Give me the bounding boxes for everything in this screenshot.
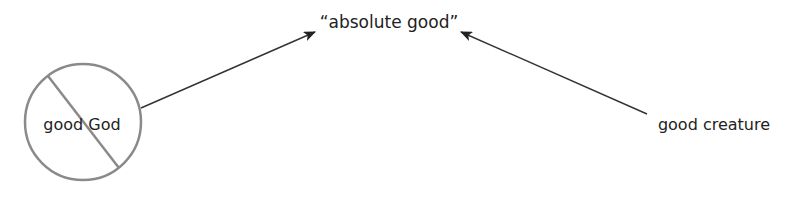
absolute-good-label: “absolute good”: [320, 12, 459, 32]
good-god-node: good God: [25, 64, 141, 180]
arrow-good-creature-to-absolute-good: [461, 32, 647, 114]
diagram-canvas: good God “absolute good” good creature: [0, 0, 801, 197]
good-god-label: good God: [43, 115, 120, 134]
arrow-good-god-to-absolute-good: [141, 32, 315, 108]
good-creature-label: good creature: [658, 115, 770, 134]
